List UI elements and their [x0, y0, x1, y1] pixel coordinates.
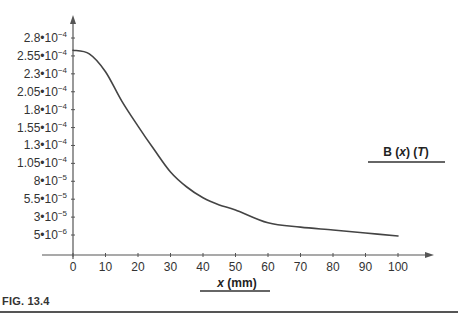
x-axis-title: x (mm) [216, 276, 256, 290]
y-tick-label: 1.05•10−4 [17, 155, 68, 170]
x-tick-label: 80 [326, 260, 340, 274]
caption-rule [0, 311, 458, 313]
x-axis-arrow-icon [425, 252, 434, 258]
y-tick-label: 2.3•10−4 [24, 66, 68, 81]
x-tick-label: 10 [99, 260, 113, 274]
series-line [73, 50, 398, 236]
x-tick-label: 70 [294, 260, 308, 274]
y-axis-arrow-icon [70, 15, 76, 24]
y-tick-label: 5•10−6 [34, 227, 68, 242]
x-tick-label: 20 [131, 260, 145, 274]
y-tick-label: 5.5•10−5 [24, 191, 68, 206]
y-axis: 2.8•10−42.55•10−42.3•10−42.05•10−41.8•10… [17, 15, 76, 259]
figure-caption: FIG. 13.4 [2, 295, 50, 307]
y-tick-label: 1.3•10−4 [24, 137, 68, 152]
y-tick-label: 8•10−5 [34, 173, 68, 188]
y-tick-label: 1.8•10−4 [24, 102, 68, 117]
series-curve [73, 50, 398, 236]
y-tick-label: 2.05•10−4 [17, 84, 68, 99]
y-tick-label: 2.8•10−4 [24, 30, 68, 45]
x-tick-label: 90 [359, 260, 373, 274]
y-axis-title: B (x) (T) [383, 145, 428, 159]
x-tick-label: 0 [70, 260, 77, 274]
x-axis: 0102030405060708090100 [42, 252, 434, 274]
x-tick-label: 60 [261, 260, 275, 274]
x-tick-label: 30 [164, 260, 178, 274]
x-tick-label: 100 [388, 260, 408, 274]
chart-canvas: 2.8•10−42.55•10−42.3•10−42.05•10−41.8•10… [0, 0, 458, 315]
y-tick-label: 3•10−5 [34, 209, 68, 224]
x-tick-label: 40 [196, 260, 210, 274]
y-tick-label: 2.55•10−4 [17, 48, 68, 63]
y-tick-label: 1.55•10−4 [17, 120, 68, 135]
x-tick-label: 50 [229, 260, 243, 274]
